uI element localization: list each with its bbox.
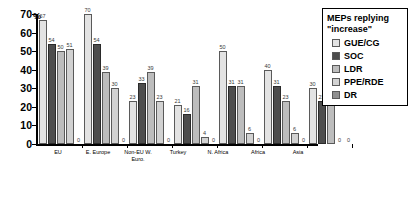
bar-dr[interactable]: 0 — [120, 14, 128, 144]
legend-swatch-icon — [332, 65, 340, 73]
y-tick-label-0: 0 — [6, 139, 32, 149]
legend-label: GUE/CG — [344, 38, 380, 48]
bar-ldr[interactable]: 39 — [102, 14, 110, 144]
bar-dr[interactable]: 0 — [165, 14, 173, 144]
bar-ldr[interactable]: 39 — [147, 14, 155, 144]
bar-rect — [264, 70, 272, 144]
bar-ldr[interactable]: 23 — [282, 14, 290, 144]
legend-label: DR — [344, 90, 357, 100]
bar-rect — [156, 101, 164, 144]
y-axis-tick-labels: 706050403020100 — [0, 14, 32, 146]
bar-gue-cg[interactable]: 50 — [219, 14, 227, 144]
bar-rect — [273, 86, 281, 144]
bar-value-label: 23 — [282, 94, 288, 100]
bar-value-label: 0 — [347, 137, 350, 143]
bar-soc[interactable]: 16 — [183, 14, 191, 144]
x-label-n-africa: N. Africa — [198, 149, 238, 162]
bar-rect — [129, 101, 137, 144]
bar-ppe-rde[interactable]: 51 — [66, 14, 74, 144]
bar-rect — [102, 72, 110, 144]
bar-rect — [138, 83, 146, 144]
legend-swatch-icon — [332, 39, 340, 47]
bar-rect — [327, 101, 335, 144]
bar-value-label: 6 — [248, 126, 251, 132]
legend-swatch-icon — [332, 91, 340, 99]
bar-gue-cg[interactable]: 67 — [39, 14, 47, 144]
x-axis-group-separator — [82, 144, 83, 148]
bar-value-label: 0 — [77, 137, 80, 143]
bar-rect — [192, 86, 200, 144]
bar-ldr[interactable]: 31 — [237, 14, 245, 144]
y-tick-label-60: 60 — [6, 28, 32, 38]
bar-ppe-rde[interactable]: 6 — [246, 14, 254, 144]
bar-value-label: 21 — [174, 98, 180, 104]
bar-rect — [174, 105, 182, 144]
bar-gue-cg[interactable]: 40 — [264, 14, 272, 144]
x-axis-line — [36, 144, 318, 146]
bar-soc[interactable]: 54 — [93, 14, 101, 144]
bar-value-label: 31 — [228, 79, 234, 85]
bar-dr[interactable]: 0 — [255, 14, 263, 144]
bar-value-label: 50 — [57, 44, 63, 50]
bar-rect — [237, 86, 245, 144]
x-label-eu: EU — [38, 149, 78, 162]
bar-value-label: 23 — [129, 94, 135, 100]
x-axis-group-separator — [217, 144, 218, 148]
bar-ldr[interactable]: 50 — [57, 14, 65, 144]
bar-rect — [48, 44, 56, 144]
bar-groups: 6754505107054393002333392302116314050313… — [38, 14, 318, 144]
legend-item-soc[interactable]: SOC — [327, 51, 403, 61]
bar-rect — [318, 101, 326, 144]
bar-soc[interactable]: 31 — [228, 14, 236, 144]
legend-title-line2: "increase" — [327, 24, 403, 35]
bar-rect — [291, 133, 299, 144]
bar-dr[interactable]: 0 — [300, 14, 308, 144]
legend-label: PPE/RDE — [344, 77, 384, 87]
bar-dr[interactable]: 0 — [75, 14, 83, 144]
bar-gue-cg[interactable]: 23 — [129, 14, 137, 144]
bar-rect — [228, 86, 236, 144]
bar-ppe-rde[interactable]: 4 — [201, 14, 209, 144]
bar-gue-cg[interactable]: 21 — [174, 14, 182, 144]
bar-value-label: 54 — [93, 37, 99, 43]
bar-rect — [183, 114, 191, 144]
y-tick-label-10: 10 — [6, 120, 32, 130]
bar-rect — [111, 88, 119, 144]
y-tick-label-70: 70 — [6, 9, 32, 19]
bar-soc[interactable]: 31 — [273, 14, 281, 144]
legend-item-ldr[interactable]: LDR — [327, 64, 403, 74]
bar-value-label: 0 — [122, 137, 125, 143]
bar-gue-cg[interactable]: 30 — [309, 14, 317, 144]
legend: MEPs replying "increase" GUE/CGSOCLDRPPE… — [322, 8, 408, 106]
legend-label: SOC — [344, 51, 364, 61]
bar-dr[interactable]: 0 — [210, 14, 218, 144]
bar-ldr[interactable]: 31 — [192, 14, 200, 144]
bar-value-label: 30 — [111, 81, 117, 87]
bar-value-label: 70 — [84, 7, 90, 13]
bar-value-label: 51 — [66, 42, 72, 48]
bar-rect — [309, 88, 317, 144]
bar-group-turkey: 21163140 — [173, 14, 218, 144]
x-axis-group-separator — [262, 144, 263, 148]
bar-rect — [39, 20, 47, 144]
bar-rect — [201, 137, 209, 144]
legend-item-dr[interactable]: DR — [327, 90, 403, 100]
y-tick-label-40: 40 — [6, 65, 32, 75]
legend-item-ppe-rde[interactable]: PPE/RDE — [327, 77, 403, 87]
bar-value-label: 39 — [147, 65, 153, 71]
legend-item-gue-cg[interactable]: GUE/CG — [327, 38, 403, 48]
bar-gue-cg[interactable]: 70 — [84, 14, 92, 144]
legend-swatch-icon — [332, 78, 340, 86]
bar-ppe-rde[interactable]: 30 — [111, 14, 119, 144]
plot-area: 6754505107054393002333392302116314050313… — [36, 14, 318, 146]
y-tick-label-50: 50 — [6, 46, 32, 56]
bar-rect — [282, 101, 290, 144]
bar-soc[interactable]: 54 — [48, 14, 56, 144]
bar-ppe-rde[interactable]: 6 — [291, 14, 299, 144]
bar-value-label: 16 — [183, 107, 189, 113]
bar-ppe-rde[interactable]: 23 — [156, 14, 164, 144]
x-axis-group-separator — [172, 144, 173, 148]
bar-rect — [219, 51, 227, 144]
bar-rect — [57, 51, 65, 144]
bar-soc[interactable]: 33 — [138, 14, 146, 144]
